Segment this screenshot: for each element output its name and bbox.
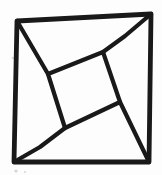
figure-canvas xyxy=(0,0,162,175)
segment-bottomright-corner-to-inner-right-vertex xyxy=(120,102,149,162)
scan-speck xyxy=(12,57,14,59)
inner-tilted-square xyxy=(48,52,120,128)
segment-topright-corner-to-inner-top-vertex xyxy=(103,14,151,52)
pinwheel-square-figure xyxy=(0,0,162,175)
segment-topleft-corner-to-inner-left-vertex xyxy=(17,21,48,74)
outer-square xyxy=(14,14,151,162)
segment-bottomleft-corner-to-inner-bottom-vertex xyxy=(14,128,65,162)
scan-speck xyxy=(14,169,17,172)
scan-speck xyxy=(24,171,26,173)
